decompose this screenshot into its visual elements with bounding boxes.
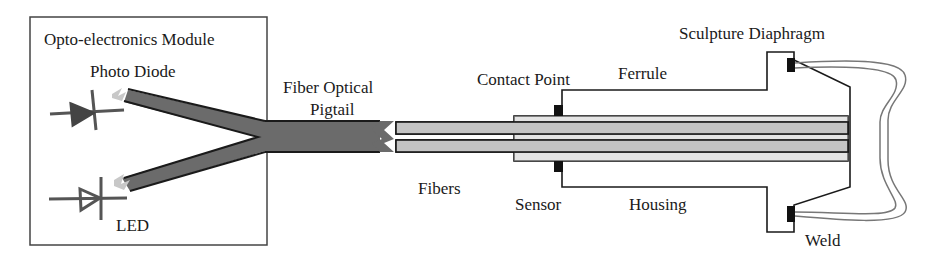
weld-lower (787, 206, 795, 222)
fiber-upper (396, 122, 848, 134)
weld-label: Weld (805, 231, 841, 250)
weld-upper (787, 58, 795, 72)
led-label: LED (116, 216, 149, 235)
ferrule-label: Ferrule (618, 64, 667, 83)
photo-diode-label: Photo Diode (90, 62, 175, 81)
fiber-sensor-diagram: Opto-electronics Module Photo Diode LED … (0, 0, 937, 263)
fibers-label: Fibers (418, 179, 461, 198)
contact-point-label: Contact Point (477, 70, 570, 89)
light-arrow-photo-diode (112, 88, 126, 101)
contact-point-lower (554, 161, 563, 172)
pigtail-label-1: Fiber Optical (283, 78, 373, 97)
contact-point-upper (554, 105, 563, 116)
module-label: Opto-electronics Module (44, 30, 214, 49)
opto-module-box (30, 17, 267, 245)
diaphragm-label: Sculpture Diaphragm (679, 24, 825, 43)
pigtail-label-2: Pigtail (310, 100, 355, 119)
fiber-lower (396, 140, 848, 152)
sensor-label: Sensor (515, 195, 562, 214)
housing-label: Housing (629, 195, 687, 214)
